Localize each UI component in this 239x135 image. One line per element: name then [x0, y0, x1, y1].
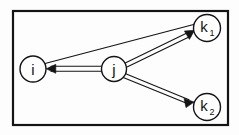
node-k1-subscript: 1	[209, 28, 214, 38]
graph-canvas: i j k 1 k 2	[0, 0, 239, 135]
node-k2-label: k	[200, 97, 208, 114]
figure-root: i j k 1 k 2	[0, 0, 239, 135]
node-i-label: i	[31, 61, 34, 78]
edge-j-to-k1	[124, 30, 194, 67]
node-i[interactable]: i	[20, 56, 46, 82]
node-k1[interactable]: k 1	[194, 15, 221, 42]
node-j-label: j	[111, 61, 115, 78]
edge-j-to-i	[46, 64, 101, 73]
node-j[interactable]: j	[102, 57, 127, 82]
arrowhead-i	[46, 64, 56, 73]
node-k2-subscript: 2	[209, 107, 214, 117]
node-k1-label: k	[200, 18, 208, 35]
node-k2[interactable]: k 2	[194, 94, 221, 121]
edge-j-to-k2	[123, 73, 195, 107]
